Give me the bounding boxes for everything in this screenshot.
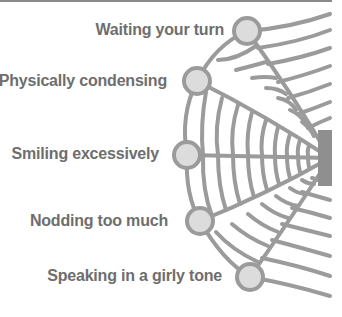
label-speaking-in-a-girly-tone: Speaking in a girly tone (47, 267, 222, 285)
label-nodding-too-much: Nodding too much (30, 212, 168, 230)
node-physically-condensing (184, 68, 210, 94)
label-smiling-excessively: Smiling excessively (12, 145, 159, 163)
node-waiting-your-turn (234, 18, 260, 44)
node-smiling-excessively (174, 142, 200, 168)
label-waiting-your-turn: Waiting your turn (96, 21, 224, 39)
label-physically-condensing: Physically condensing (0, 72, 167, 90)
node-nodding-too-much (187, 208, 213, 234)
node-speaking-in-a-girly-tone (237, 264, 263, 290)
